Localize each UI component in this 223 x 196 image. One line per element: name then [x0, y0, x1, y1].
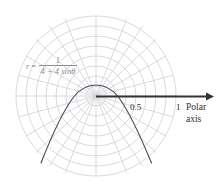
polar-axis-caption: Polar axis — [186, 102, 206, 126]
equation-lhs: r — [26, 62, 29, 71]
equation-label: r = 1 4 + 4 sinθ — [26, 56, 96, 76]
equation-denominator: 4 + 4 sinθ — [39, 66, 78, 75]
equation-fraction: 1 4 + 4 sinθ — [39, 56, 78, 76]
polar-graph-figure: r = 1 4 + 4 sinθ 0.5 1 Polar axis — [0, 0, 223, 196]
polar-axis-caption-line1: Polar — [186, 102, 206, 114]
polar-axis-arrow — [96, 93, 214, 101]
tick-label-1: 1 — [176, 103, 181, 112]
equation-numerator: 1 — [54, 56, 62, 65]
equation-equals: = — [31, 62, 36, 71]
tick-label-0-5: 0.5 — [130, 103, 141, 112]
polar-axis-caption-line2: axis — [186, 114, 206, 126]
figure-canvas — [0, 0, 223, 196]
